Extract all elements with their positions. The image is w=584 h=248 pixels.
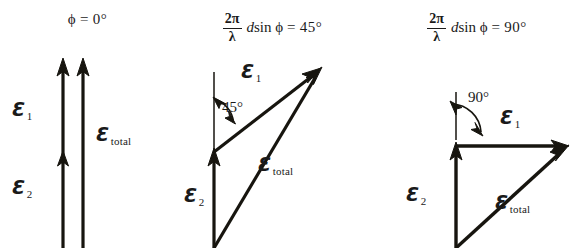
panel-2-vectors (370, 0, 584, 248)
panel-phase-0: ϕ = 0° Ɛ1 Ɛ2 Ɛtotal (0, 0, 175, 248)
label-e2: Ɛ2 (12, 178, 32, 200)
label-e1: Ɛ1 (500, 108, 520, 130)
panel-0-vectors (0, 0, 175, 248)
label-e1: Ɛ1 (12, 100, 32, 122)
phasor-diagram-figure: ϕ = 0° Ɛ1 Ɛ2 Ɛtotal 2π (0, 0, 584, 248)
panel-phase-45: 2π λ dsin ϕ = 45° 45° Ɛ1 (175, 0, 370, 248)
label-etotal: Ɛtotal (495, 193, 530, 215)
label-etotal: Ɛtotal (258, 155, 293, 177)
label-e2: Ɛ2 (406, 185, 426, 207)
angle-label-45: 45° (222, 100, 243, 115)
angle-label-90: 90° (468, 90, 489, 105)
panel-1-vectors (175, 0, 370, 248)
label-etotal: Ɛtotal (96, 125, 131, 147)
label-e2: Ɛ2 (184, 186, 204, 208)
label-e1: Ɛ1 (241, 62, 261, 84)
panel-phase-90: 2π λ dsin ϕ = 90° 90° Ɛ1 (370, 0, 584, 248)
